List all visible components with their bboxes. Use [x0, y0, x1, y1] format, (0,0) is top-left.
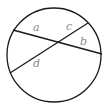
- label-b: b: [80, 35, 87, 48]
- label-d: d: [33, 57, 40, 70]
- label-a: a: [33, 21, 40, 34]
- circle: [7, 8, 101, 102]
- chord-cd: [10, 23, 88, 73]
- label-c: c: [66, 20, 72, 33]
- chords-diagram: a c b d: [0, 0, 109, 106]
